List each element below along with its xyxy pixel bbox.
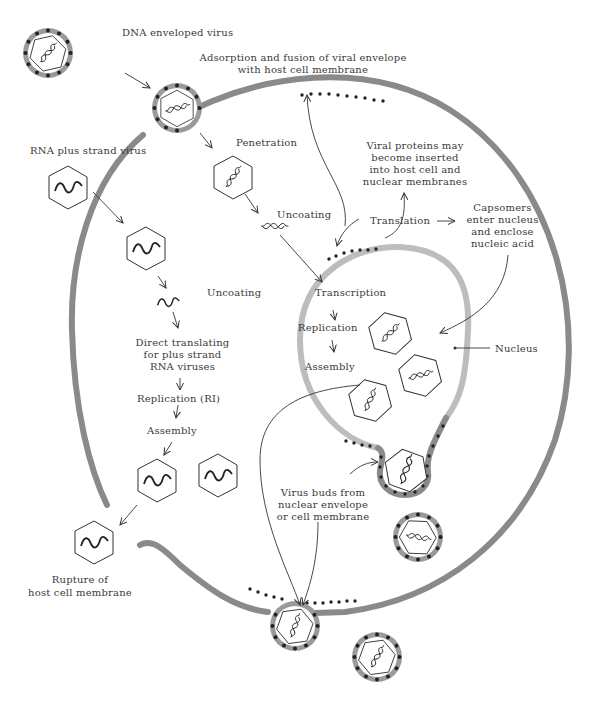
label-assembly-rna: Assembly xyxy=(147,425,197,438)
label-direct-translating-2: for plus strand xyxy=(115,349,250,362)
nucleus-pointer xyxy=(454,347,491,350)
label-viral-proteins-2: become inserted xyxy=(355,152,475,165)
label-capsomers-2: enter nucleus xyxy=(455,214,550,227)
fusing-virus xyxy=(152,83,202,133)
label-buds-3: or cell membrane xyxy=(263,511,383,524)
label-rupture-2: host cell membrane xyxy=(20,587,140,600)
label-capsomers-3: and enclose xyxy=(455,226,550,239)
label-capsomers-4: nucleic acid xyxy=(455,238,550,251)
label-transcription: Transcription xyxy=(315,287,386,300)
nuclear-capsid-2 xyxy=(396,350,444,401)
label-adsorption-1: Adsorption and fusion of viral envelope xyxy=(183,52,423,65)
uncoated-rna xyxy=(158,298,180,306)
label-penetration: Penetration xyxy=(236,137,297,150)
free-enveloped-virus-1 xyxy=(393,512,443,562)
released-rna-virus xyxy=(75,521,113,564)
label-adsorption-2: with host cell membrane xyxy=(183,64,423,77)
budding-membrane-virus xyxy=(270,601,320,651)
label-buds-1: Virus buds from xyxy=(263,487,383,500)
label-viral-proteins-4: nuclear membranes xyxy=(355,176,475,189)
assembled-rna-virus-1 xyxy=(138,459,176,502)
label-uncoating-rna: Uncoating xyxy=(207,287,261,300)
label-viral-proteins-1: Viral proteins may xyxy=(355,140,475,153)
label-uncoating-dna: Uncoating xyxy=(277,209,331,222)
label-replication-ri: Replication (RI) xyxy=(137,393,220,406)
nuclear-capsid-1 xyxy=(366,308,414,359)
free-enveloped-virus-2 xyxy=(352,632,402,682)
label-rupture-1: Rupture of xyxy=(20,574,140,587)
dna-enveloped-virus xyxy=(23,28,73,78)
label-buds-2: nuclear envelope xyxy=(263,499,383,512)
assembled-rna-virus-2 xyxy=(199,454,237,497)
nuclear-capsid-3 xyxy=(346,375,394,426)
rna-plus-strand-virus xyxy=(49,166,87,209)
rna-virus-entered xyxy=(127,227,165,270)
label-direct-translating-3: RNA viruses xyxy=(115,361,250,374)
label-direct-translating-1: Direct translating xyxy=(115,337,250,350)
uncoated-dna xyxy=(261,223,288,228)
label-capsomers-1: Capsomers xyxy=(455,202,550,215)
label-assembly-nucleus: Assembly xyxy=(305,361,355,374)
label-viral-proteins-3: into host cell and xyxy=(355,164,475,177)
label-dna-enveloped-virus: DNA enveloped virus xyxy=(122,27,233,40)
label-nucleus: Nucleus xyxy=(495,343,538,356)
label-translation: Translation xyxy=(370,215,430,228)
label-replication: Replication xyxy=(298,322,358,335)
penetrated-capsid xyxy=(214,156,252,199)
label-rna-plus-strand-virus: RNA plus strand virus xyxy=(30,145,146,158)
